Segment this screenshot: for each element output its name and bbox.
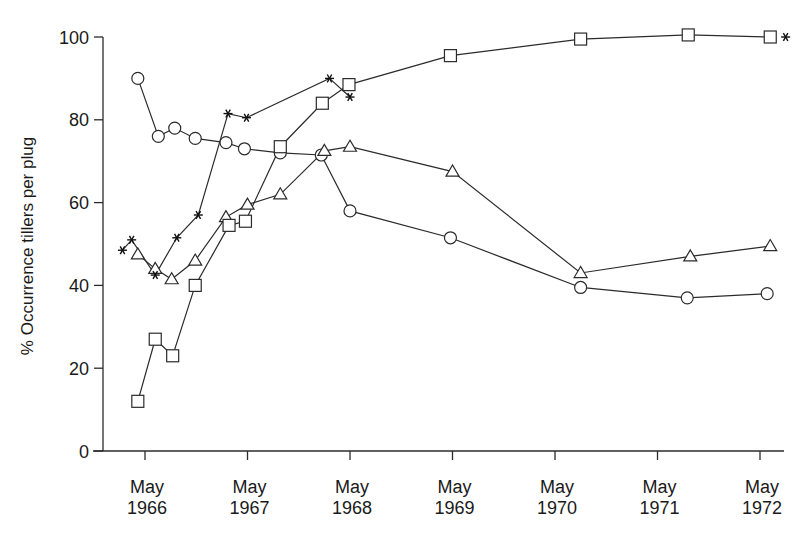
square-marker [274, 141, 286, 153]
x-tick-label-month: May [540, 477, 574, 497]
circle-marker [220, 137, 232, 149]
circle-marker [132, 72, 144, 84]
line-chart: 020406080100May1966May1967May1968May1969… [0, 0, 803, 544]
circle-marker [681, 292, 693, 304]
y-tick-label: 80 [69, 110, 89, 130]
square-marker [343, 79, 355, 91]
x-tick-label-year: 1969 [434, 498, 474, 518]
square-marker [167, 350, 179, 362]
circle-marker [761, 288, 773, 300]
y-tick-label: 0 [79, 442, 89, 462]
circle-marker [238, 143, 250, 155]
x-tick-label-month: May [437, 477, 471, 497]
y-tick-label: 20 [69, 359, 89, 379]
triangle-marker [764, 240, 777, 251]
asterisk-marker [224, 110, 233, 118]
circles-line [138, 78, 767, 297]
circle-marker [169, 122, 181, 134]
x-tick-label-year: 1968 [332, 498, 372, 518]
triangle-marker [189, 254, 202, 265]
y-tick-label: 60 [69, 193, 89, 213]
series-markers [118, 29, 790, 407]
x-tick-label-year: 1967 [229, 498, 269, 518]
triangle-marker [165, 273, 178, 284]
square-marker [682, 29, 694, 41]
square-marker [575, 33, 587, 45]
square-marker [132, 395, 144, 407]
x-tick-label-month: May [130, 477, 164, 497]
triangle-marker [344, 140, 357, 151]
circle-marker [575, 281, 587, 293]
square-marker [316, 97, 328, 109]
square-marker [764, 31, 776, 43]
y-axis-title: % Occurrence tillers per plug [18, 137, 37, 355]
x-tick-label-month: May [745, 477, 779, 497]
series-lines [122, 35, 770, 401]
y-tick-label: 100 [59, 28, 89, 48]
x-tick-label-month: May [335, 477, 369, 497]
asterisk-marker [781, 33, 790, 41]
triangle-marker [131, 248, 144, 259]
axes: 020406080100May1966May1967May1968May1969… [59, 28, 784, 519]
square-marker [223, 219, 235, 231]
square-marker [444, 50, 456, 62]
x-tick-label-year: 1966 [127, 498, 167, 518]
x-tick-label-month: May [642, 477, 676, 497]
square-marker [189, 279, 201, 291]
chart-container: 020406080100May1966May1967May1968May1969… [0, 0, 803, 544]
asterisk-marker [242, 114, 251, 122]
circle-marker [152, 130, 164, 142]
y-tick-label: 40 [69, 276, 89, 296]
x-tick-label-year: 1972 [742, 498, 782, 518]
circle-marker [344, 205, 356, 217]
circle-marker [189, 132, 201, 144]
squares-line [138, 35, 770, 401]
circle-marker [444, 232, 456, 244]
x-tick-label-month: May [232, 477, 266, 497]
x-tick-label-year: 1970 [537, 498, 577, 518]
x-tick-label-year: 1971 [639, 498, 679, 518]
square-marker [149, 333, 161, 345]
square-marker [239, 215, 251, 227]
